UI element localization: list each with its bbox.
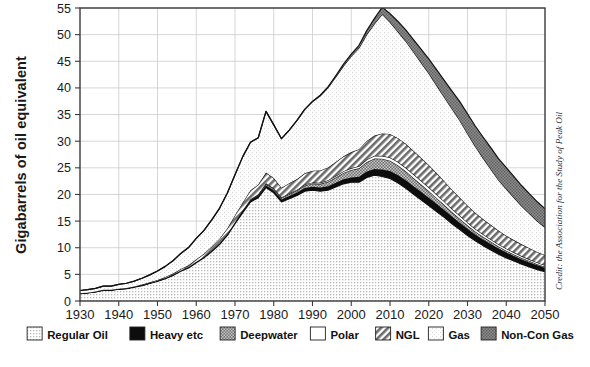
y-tick-label: 40: [57, 81, 71, 95]
x-tick-label: 1980: [259, 307, 288, 322]
y-tick-label: 50: [57, 28, 71, 42]
legend-item-heavy-etc[interactable]: Heavy etc: [130, 327, 203, 341]
legend-swatch-deepwater: [220, 327, 235, 340]
x-tick-label: 1940: [104, 307, 133, 322]
x-tick-label: 2010: [376, 307, 405, 322]
legend-label: NGL: [396, 329, 420, 341]
x-tick-label: 2030: [453, 307, 482, 322]
x-tick-label: 2040: [492, 307, 521, 322]
y-tick-label: 5: [64, 268, 71, 282]
legend-swatch-gas: [428, 327, 443, 340]
legend-item-polar[interactable]: Polar: [310, 327, 359, 341]
legend-label: Polar: [330, 329, 359, 341]
legend-label: Heavy etc: [150, 329, 203, 341]
legend-label: Regular Oil: [47, 329, 108, 341]
y-tick-label: 30: [57, 135, 71, 149]
y-axis-label: Gigabarrels of oil equivalent: [13, 56, 29, 254]
x-tick-label: 1990: [298, 307, 327, 322]
credit-label: Credit: the Association for the Study of…: [554, 111, 564, 290]
legend-swatch-polar: [310, 327, 325, 340]
x-tick-label: 1930: [66, 307, 95, 322]
legend-label: Gas: [448, 329, 470, 341]
legend-item-deepwater[interactable]: Deepwater: [220, 327, 298, 341]
x-tick-label: 2000: [337, 307, 366, 322]
legend-swatch-non-con-gas: [481, 327, 496, 340]
legend-swatch-heavy-etc: [130, 327, 145, 340]
y-tick-label: 55: [57, 2, 71, 16]
legend-swatch-ngl: [376, 327, 391, 340]
x-tick-label: 2020: [414, 307, 443, 322]
y-tick-label: 25: [57, 161, 71, 175]
legend-label: Deepwater: [240, 329, 298, 341]
y-tick-label: 35: [57, 108, 71, 122]
y-tick-label: 15: [57, 215, 71, 229]
y-tick-label: 10: [57, 241, 71, 255]
x-tick-label: 1950: [143, 307, 172, 322]
legend-label: Non-Con Gas: [501, 329, 574, 341]
x-tick-label: 2050: [531, 307, 560, 322]
x-tick-label: 1960: [182, 307, 211, 322]
legend-item-gas[interactable]: Gas: [428, 327, 470, 341]
legend-item-ngl[interactable]: NGL: [376, 327, 420, 341]
chart-container: 0510152025303540455055 19301940195019601…: [0, 0, 590, 367]
x-tick-label: 1970: [221, 307, 250, 322]
y-tick-label: 45: [57, 55, 71, 69]
y-tick-label: 20: [57, 188, 71, 202]
legend-item-non-con-gas[interactable]: Non-Con Gas: [481, 327, 574, 341]
oil-gas-production-area-chart: 0510152025303540455055 19301940195019601…: [0, 0, 590, 367]
legend-swatch-regular-oil: [27, 327, 42, 340]
legend-item-regular-oil[interactable]: Regular Oil: [27, 327, 108, 341]
